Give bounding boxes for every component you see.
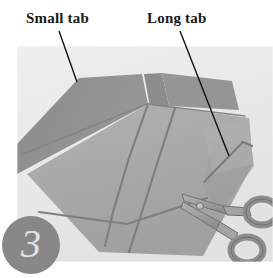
annotation-label-long-tab: Long tab [147, 11, 207, 26]
figure-root: Small tab Long tab [0, 0, 273, 278]
annotation-label-small-tab: Small tab [26, 11, 89, 26]
step-number-text: 3 [21, 224, 41, 264]
step-number-badge: 3 [2, 216, 60, 274]
scissors-pivot [197, 203, 204, 210]
